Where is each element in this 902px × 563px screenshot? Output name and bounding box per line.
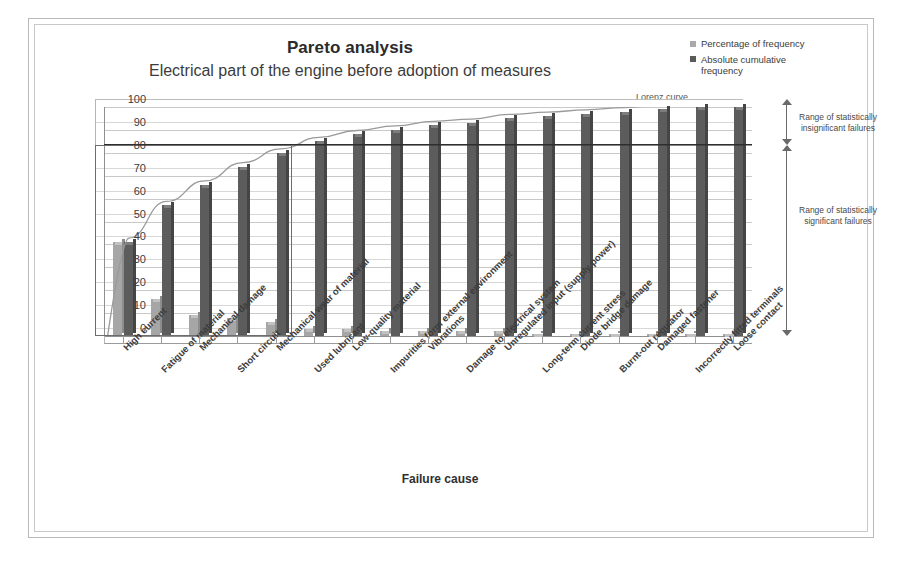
- pareto-chart-page: Pareto analysis Electrical part of the e…: [0, 0, 902, 563]
- y-tick-40: 40: [106, 230, 146, 242]
- bar-cumulative-6: [353, 134, 362, 336]
- gridline-back-100: [95, 99, 743, 100]
- x-tick-3: [237, 336, 238, 343]
- bar-cumulative-12: [581, 114, 590, 336]
- bar-cumulative-16: [734, 107, 743, 336]
- legend-label-percentage: Percentage of frequency: [701, 38, 805, 49]
- x-tick-5: [314, 336, 315, 343]
- chart-subtitle: Electrical part of the engine before ado…: [0, 62, 700, 80]
- y-tick-10: 10: [106, 299, 146, 311]
- legend-swatch-cumulative-icon: [690, 56, 696, 62]
- y-tick-80: 80: [106, 139, 146, 151]
- bar-cumulative-14: [658, 109, 667, 336]
- gridline-back-90: [95, 122, 743, 123]
- x-axis-title: Failure cause: [0, 472, 880, 486]
- annotation-range-significant: Range of statistically significant failu…: [795, 205, 881, 226]
- plot-area: [104, 107, 752, 336]
- y-tick-30: 30: [106, 253, 146, 265]
- y-tick-60: 60: [106, 185, 146, 197]
- y-tick-100: 100: [106, 93, 146, 105]
- y-tick-20: 20: [106, 276, 146, 288]
- x-tick-7: [390, 336, 391, 343]
- bar-cumulative-10: [505, 118, 514, 336]
- y-tick-70: 70: [106, 162, 146, 174]
- bar-percentage-5: [304, 329, 313, 336]
- x-tick-15: [695, 336, 696, 343]
- x-tick-11: [542, 336, 543, 343]
- chart-title: Pareto analysis: [0, 38, 700, 58]
- y-tick-90: 90: [106, 116, 146, 128]
- legend-item-cumulative: Absolute cumulative frequency: [690, 54, 810, 77]
- bar-cumulative-8: [429, 125, 438, 336]
- legend-swatch-percentage-icon: [690, 41, 696, 47]
- legend-item-percentage: Percentage of frequency: [690, 38, 810, 50]
- bar-cumulative-9: [467, 123, 476, 336]
- annotation-range-insignificant: Range of statistically insignificant fai…: [795, 112, 881, 133]
- gridline-100: [104, 107, 752, 108]
- y-tick-50: 50: [106, 208, 146, 220]
- legend-label-cumulative: Absolute cumulative frequency: [701, 54, 786, 77]
- x-axis-labels: High currentFatigue of materialMechanica…: [104, 336, 764, 476]
- chart-legend: Percentage of frequency Absolute cumulat…: [690, 38, 810, 81]
- x-tick-9: [466, 336, 467, 343]
- x-tick-1: [161, 336, 162, 343]
- gridline-90: [104, 130, 752, 131]
- x-tick-13: [619, 336, 620, 343]
